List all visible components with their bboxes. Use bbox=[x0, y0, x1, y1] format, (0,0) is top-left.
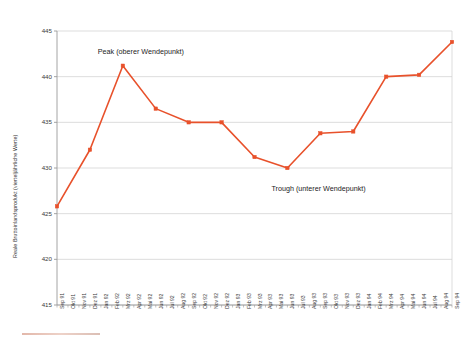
x-axis-tick-label: Dez 92 bbox=[224, 293, 230, 309]
x-axis-tick-label: Aug 93 bbox=[311, 293, 317, 309]
x-axis-tick-label: Jan 92 bbox=[103, 294, 109, 309]
x-axis-tick-label: Apr 93 bbox=[267, 294, 273, 309]
x-axis-tick-label: Jun 92 bbox=[158, 294, 164, 309]
x-axis-tick-label: Jan 94 bbox=[366, 294, 372, 309]
x-axis-tick-label: Okt 93 bbox=[333, 294, 339, 309]
annotation-peak: Peak (oberer Wendepunkt) bbox=[98, 47, 184, 56]
data-point-marker bbox=[187, 121, 190, 124]
data-point-marker bbox=[88, 148, 91, 151]
x-axis-tick-label: Nov 91 bbox=[81, 293, 87, 309]
x-axis-tick-label: Jul 93 bbox=[300, 295, 306, 309]
data-point-marker bbox=[220, 121, 223, 124]
x-axis-tick-label: Jan 93 bbox=[235, 294, 241, 309]
x-axis-tick-label: Mai 92 bbox=[147, 294, 153, 309]
x-axis-tick-label: Apr 92 bbox=[136, 294, 142, 309]
x-axis-tick-label: Nov 92 bbox=[213, 293, 219, 309]
x-axis-tick-label: Sep 92 bbox=[191, 293, 197, 309]
data-point-marker bbox=[121, 64, 124, 67]
data-point-marker bbox=[352, 130, 355, 133]
footer-rule bbox=[22, 333, 100, 335]
x-axis-tick-label: Mrz 94 bbox=[388, 293, 394, 309]
x-axis-tick-label: Sep 91 bbox=[59, 293, 65, 309]
x-axis-tick-label: Okt 91 bbox=[70, 294, 76, 309]
annotation-trough: Trough (unterer Wendepunkt) bbox=[271, 184, 365, 193]
x-axis-tick-label: Mrz 93 bbox=[257, 293, 263, 309]
x-axis-tick-label: Dez 91 bbox=[92, 293, 98, 309]
x-axis-tick-label: Dez 93 bbox=[355, 293, 361, 309]
x-axis-tick-label: Aug 94 bbox=[443, 293, 449, 309]
data-point-marker bbox=[55, 205, 58, 208]
x-axis-tick-label: Mai 94 bbox=[410, 294, 416, 309]
data-point-marker bbox=[253, 155, 256, 158]
x-axis-tick-label: Apr 94 bbox=[399, 294, 405, 309]
x-axis-tick-label: Feb 94 bbox=[377, 293, 383, 309]
x-axis-tick-label: Jul 94 bbox=[432, 295, 438, 309]
gdp-line-chart: Reale Bruttoinlandsprodukt (vierteljährl… bbox=[0, 0, 463, 345]
x-axis-tick-label: Jul 92 bbox=[169, 295, 175, 309]
data-point-marker bbox=[384, 75, 387, 78]
data-point-marker bbox=[286, 166, 289, 169]
x-axis-tick-label: Sep 94 bbox=[454, 293, 460, 309]
data-point-marker bbox=[319, 132, 322, 135]
x-axis-tick-label: Mai 93 bbox=[278, 294, 284, 309]
data-point-marker bbox=[417, 73, 420, 76]
x-axis-tick-label: Feb 92 bbox=[114, 293, 120, 309]
data-point-marker bbox=[450, 40, 453, 43]
series-line bbox=[57, 42, 452, 206]
x-axis-tick-label: Nov 93 bbox=[344, 293, 350, 309]
x-axis-tick-label: Jun 94 bbox=[421, 294, 427, 309]
x-axis-tick-label: Aug 92 bbox=[180, 293, 186, 309]
x-axis-tick-label: Jun 93 bbox=[289, 294, 295, 309]
x-axis-tick-label: Sep 93 bbox=[322, 293, 328, 309]
x-axis-tick-label: Feb 93 bbox=[246, 293, 252, 309]
x-axis-tick-label: Okt 92 bbox=[202, 294, 208, 309]
x-axis-tick-label: Mrz 92 bbox=[125, 293, 131, 309]
data-point-marker bbox=[154, 107, 157, 110]
